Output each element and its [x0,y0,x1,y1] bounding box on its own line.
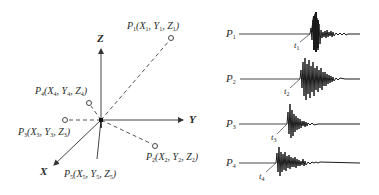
x-axis-label: X [40,166,47,177]
sensor-p5-label: P5(X5, Y5, Z5) [64,169,116,180]
line-p1 [101,41,169,120]
sensor-p4-marker [87,101,92,106]
sensor-p3-label: P3(X3, Y3, Z3) [18,127,70,138]
sensor-p1-marker [169,36,174,41]
waveform-p2 [240,58,360,100]
y-axis-label: Y [189,114,196,125]
sensor-p4-label: P4(X4, Y4, Z4) [35,86,87,97]
waveform-p4-label: P4 [226,157,236,169]
line-p2 [101,120,152,144]
origin-source [99,118,103,122]
waveform-p2-label: P2 [226,73,236,85]
sensor-p2-label: P2(X2, Y2, Z2) [146,152,198,163]
diagram-canvas [0,0,379,195]
waveforms [239,12,360,176]
z-axis-label: Z [97,33,104,44]
waveform-p1-label: P1 [226,28,236,40]
waveform-p4 [239,147,360,176]
axes [54,49,183,165]
arrival-t2-label: t2 [284,87,290,97]
arrival-t1-label: t1 [294,41,300,51]
arrival-t3-label: t3 [271,133,277,143]
sensor-p2-marker [153,144,158,149]
arrival-t4-label: t4 [259,172,265,182]
waveform-p3 [239,104,360,138]
sensor-p1-label: P1(X1, Y1, Z1) [127,21,179,32]
line-p4 [91,106,101,120]
diagram: Z Y X P1(X1, Y1, Z1) P4(X4, Y4, Z4) P3(X… [0,0,379,195]
sensor-p3-marker [63,118,68,123]
waveform-p3-label: P3 [226,118,236,130]
